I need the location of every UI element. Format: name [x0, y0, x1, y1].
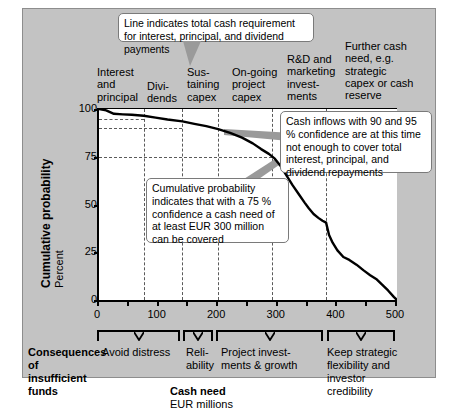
x-axis-title-group: Cash need EUR millions: [170, 385, 330, 411]
x-axis-title: Cash need: [170, 385, 330, 398]
y-tick-label-100: 100: [71, 102, 97, 114]
y-tick-label-0: 0: [71, 293, 97, 305]
bracket-label-project-investments: Project invest- ments & growth: [221, 346, 313, 372]
x-tick-label-300: 300: [256, 308, 296, 320]
x-tick-200: [216, 301, 218, 306]
x-tick-400: [335, 301, 337, 306]
top-label-dividends: Divi- dends: [147, 80, 185, 105]
bracket-keep-strategic-flexibility: [327, 330, 396, 342]
x-tick-label-200: 200: [196, 308, 236, 320]
x-tick-minor-250: [246, 301, 248, 306]
top-label-further-cash-need: Further cash need, e.g. strategic capex …: [345, 40, 417, 102]
callout-right: Cash inflows with 90 and 95 % confidence…: [280, 111, 432, 173]
x-tick-minor-50: [127, 301, 129, 306]
y-tick-label-50: 50: [71, 198, 97, 210]
consequences-title: Consequences of insufficient funds: [28, 346, 100, 398]
x-tick-300: [276, 301, 278, 306]
bracket-project-investments: [216, 330, 323, 342]
bracket-label-reliability: Reli- ability: [186, 346, 220, 372]
y-tick-label-75: 75: [71, 150, 97, 162]
callout-top: Line indicates total cash requirement fo…: [118, 13, 314, 42]
bracket-label-keep-strategic: Keep strategic flexibility and investor …: [327, 346, 409, 398]
top-label-sustaining-capex: Sus- taining capex: [187, 66, 231, 103]
x-tick-label-100: 100: [137, 308, 177, 320]
bracket-label-avoid-distress: Avoid distress: [102, 346, 180, 359]
top-label-ongoing-project-capex: On-going project capex: [232, 66, 284, 103]
bracket-reliability: [183, 330, 213, 342]
x-tick-100: [157, 301, 159, 306]
top-label-interest-principal: Interest and principal: [97, 66, 149, 103]
top-label-rd-marketing-investments: R&D and marketing invest- ments: [287, 53, 343, 102]
x-tick-500: [395, 301, 397, 306]
x-tick-0: [97, 301, 99, 306]
bracket-avoid-distress: [97, 330, 180, 342]
y-axis: 0 25 50 75 100: [60, 109, 97, 300]
x-tick-minor-450: [365, 301, 367, 306]
x-axis-subtitle: EUR millions: [170, 398, 330, 411]
x-tick-label-0: 0: [77, 308, 117, 320]
callout-top-pointer: [183, 41, 205, 67]
x-tick-minor-150: [186, 301, 188, 306]
y-axis-title: Cumulative probability: [40, 159, 53, 288]
x-tick-label-400: 400: [315, 308, 355, 320]
x-axis: 0 100 200 300 400 500: [97, 301, 397, 302]
y-tick-label-25: 25: [71, 245, 97, 257]
chart-figure: Interest and principal Divi- dends Sus- …: [0, 0, 452, 415]
x-tick-minor-350: [306, 301, 308, 306]
x-tick-label-500: 500: [375, 308, 415, 320]
callout-middle: Cumulative probability indicates that wi…: [146, 178, 289, 243]
consequences-bracket-row: [97, 330, 397, 344]
